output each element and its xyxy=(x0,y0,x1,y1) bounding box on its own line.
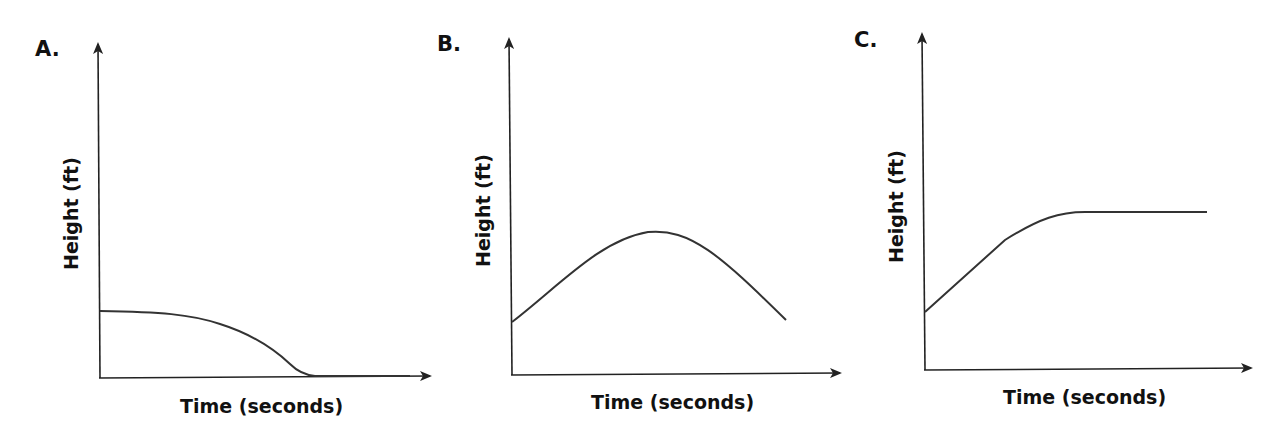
chart-a-y-axis xyxy=(98,44,100,378)
chart-c xyxy=(922,34,1251,370)
chart-b-label: B. xyxy=(437,32,461,56)
chart-a-x-axis-label: Time (seconds) xyxy=(180,395,343,417)
chart-b-y-axis xyxy=(509,39,512,375)
chart-a-y-axis-label: Height (ft) xyxy=(60,157,82,270)
chart-b-x-axis-label: Time (seconds) xyxy=(591,391,754,413)
chart-c-curve xyxy=(925,212,1207,312)
chart-a xyxy=(98,44,430,378)
charts-canvas xyxy=(0,0,1274,441)
chart-b xyxy=(509,39,840,375)
chart-b-curve xyxy=(512,232,786,322)
chart-a-label: A. xyxy=(35,37,60,61)
chart-a-curve xyxy=(100,311,410,376)
chart-c-label: C. xyxy=(854,28,877,52)
chart-c-x-axis xyxy=(924,368,1251,370)
chart-b-y-axis-label: Height (ft) xyxy=(472,154,494,267)
chart-c-x-axis-label: Time (seconds) xyxy=(1003,386,1166,408)
chart-c-y-axis xyxy=(922,34,925,370)
chart-c-y-axis-label: Height (ft) xyxy=(885,150,907,263)
chart-b-x-axis xyxy=(511,373,840,375)
